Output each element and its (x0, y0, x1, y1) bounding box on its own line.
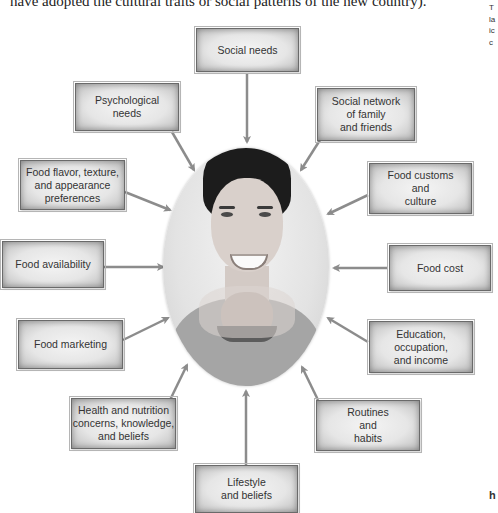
arrow-food-flavor (125, 192, 170, 210)
factor-social-network: Social network of family and friends (317, 88, 415, 141)
left-brow (219, 206, 235, 209)
factor-food-customs: Food customs and culture (369, 163, 472, 214)
right-eye (259, 212, 271, 217)
center-photo-woman-eating-burger (163, 148, 329, 386)
arrow-social-network (301, 140, 320, 170)
factor-lifestyle: Lifestyle and beliefs (195, 465, 298, 513)
factor-routines: Routines and habits (316, 400, 420, 451)
factor-food-availability: Food availability (2, 241, 104, 288)
left-eye (221, 212, 233, 217)
factor-education: Education, occupation, and income (369, 321, 473, 373)
factor-social-needs: Social needs (196, 28, 299, 72)
arrow-psychological (172, 132, 194, 170)
factor-health-nutrition: Health and nutrition concerns, knowledge… (71, 398, 176, 449)
factor-food-marketing: Food marketing (18, 320, 123, 369)
factor-food-cost: Food cost (389, 245, 491, 291)
arrow-food-customs (328, 195, 368, 214)
factor-food-flavor: Food flavor, texture, and appearance pre… (20, 160, 125, 210)
arrow-education (328, 318, 368, 342)
arrow-food-marketing (123, 318, 168, 340)
right-brow (257, 206, 273, 209)
factor-psychological-needs: Psychological needs (75, 83, 179, 131)
hands-shape (199, 286, 295, 338)
